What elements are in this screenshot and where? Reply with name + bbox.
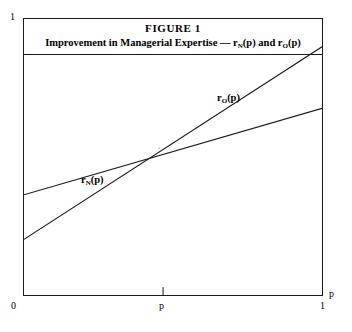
line-r-n — [24, 108, 322, 194]
curve-label-r-o-subscript: O — [222, 97, 227, 105]
plot-frame: FIGURE 1 Improvement in Managerial Exper… — [23, 18, 323, 296]
axis-origin-label: 0 — [11, 300, 16, 311]
x-axis-midpoint-label: p — [159, 300, 164, 311]
scan-artifact-speck — [158, 147, 160, 149]
plot-lines-canvas — [24, 19, 322, 295]
curve-label-r-o-suffix: (p) — [227, 92, 240, 103]
curve-label-r-n: rN(p) — [81, 174, 104, 187]
curve-label-r-n-subscript: N — [86, 179, 91, 187]
x-axis-title: p — [329, 288, 334, 299]
y-axis-max-label: 1 — [10, 11, 15, 22]
curve-label-r-o-base: r — [217, 92, 222, 103]
curve-label-r-n-base: r — [81, 174, 86, 185]
figure-container: 1 0 p 1 p FIGURE 1 Improvement in Manage… — [0, 0, 352, 332]
curve-label-r-n-suffix: (p) — [91, 174, 104, 185]
curve-label-r-o: rO(p) — [217, 92, 240, 105]
x-axis-max-label: 1 — [320, 300, 325, 311]
line-r-o — [24, 47, 322, 240]
